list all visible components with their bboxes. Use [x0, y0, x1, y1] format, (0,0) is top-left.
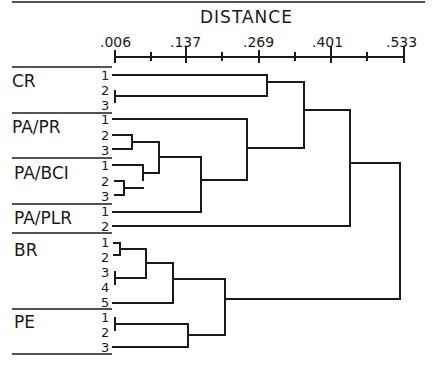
group-label-pa-plr: PA/PLR	[14, 208, 72, 228]
svg-text:1: 1	[101, 235, 109, 250]
svg-text:1: 1	[101, 112, 109, 127]
svg-text:1: 1	[101, 204, 109, 219]
dendrogram: DISTANCE .006 .137 .269 .401 .533 CR PA/…	[0, 0, 432, 366]
svg-text:1: 1	[101, 68, 109, 83]
tick-label-0: .006	[100, 34, 131, 50]
group-label-pa-bci: PA/BCI	[14, 163, 69, 183]
svg-text:2: 2	[101, 325, 109, 340]
svg-text:1: 1	[101, 310, 109, 325]
svg-text:5: 5	[101, 295, 109, 310]
svg-text:3: 3	[101, 265, 109, 280]
tick-label-4: .533	[386, 34, 417, 50]
tick-label-2: .269	[243, 34, 274, 50]
group-label-br: BR	[14, 240, 38, 260]
group-label-pe: PE	[14, 312, 35, 332]
svg-text:3: 3	[101, 189, 109, 204]
tick-label-3: .401	[312, 34, 343, 50]
svg-text:2: 2	[101, 250, 109, 265]
axis-title: DISTANCE	[200, 7, 293, 27]
svg-text:2: 2	[101, 83, 109, 98]
svg-text:1: 1	[101, 158, 109, 173]
svg-text:3: 3	[101, 340, 109, 355]
leaf-labels: 1 2 3 1 2 3 1 2 3 1 2 1 2 3 4 5 1 2 3	[101, 68, 109, 355]
svg-text:4: 4	[101, 280, 109, 295]
svg-text:2: 2	[101, 219, 109, 234]
group-label-pa-pr: PA/PR	[12, 117, 61, 137]
svg-text:2: 2	[101, 128, 109, 143]
svg-text:2: 2	[101, 174, 109, 189]
svg-text:3: 3	[101, 98, 109, 113]
group-label-cr: CR	[12, 71, 36, 91]
svg-text:3: 3	[101, 143, 109, 158]
dendrogram-branches	[113, 75, 400, 347]
